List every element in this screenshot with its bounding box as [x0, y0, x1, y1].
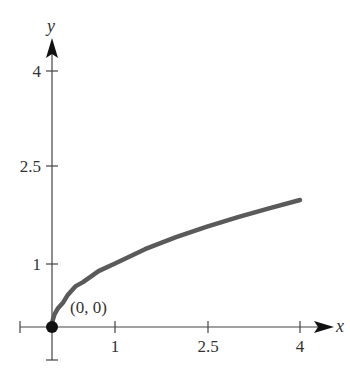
x-tick-label-4: 4	[296, 337, 305, 356]
sqrt-chart: 1 2.5 4 1 2.5 4 x y (0, 0)	[0, 0, 350, 376]
x-tick-label-2-5: 2.5	[197, 337, 218, 356]
x-axis-label: x	[335, 316, 344, 336]
y-tick-label-2-5: 2.5	[20, 157, 41, 176]
y-tick-label-1: 1	[33, 255, 42, 274]
origin-point-label: (0, 0)	[70, 298, 107, 317]
x-tick-label-1: 1	[111, 337, 120, 356]
y-tick-label-4: 4	[33, 62, 42, 81]
y-axis-label: y	[45, 16, 55, 36]
origin-point-marker	[46, 321, 58, 333]
